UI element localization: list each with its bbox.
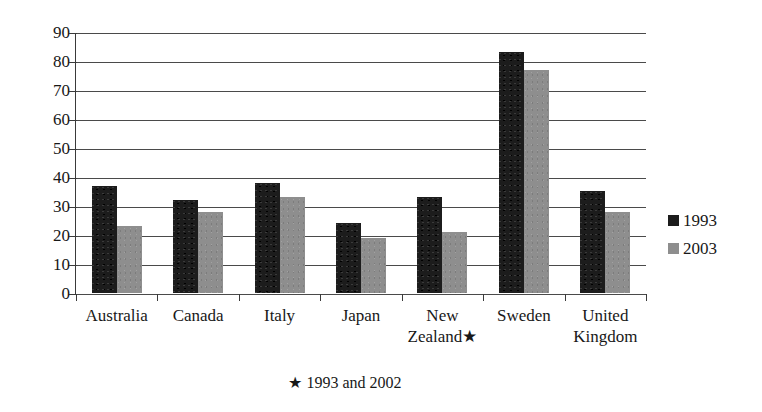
y-axis-tick-label: 40	[24, 169, 70, 186]
chart-footnote: ★ 1993 and 2002	[0, 373, 690, 392]
bar-1993	[499, 52, 524, 293]
y-axis-tick-label: 10	[24, 256, 70, 273]
y-axis-tickmark	[69, 120, 77, 121]
bar-group	[173, 32, 223, 293]
x-axis-tickmark	[76, 294, 77, 301]
bar-2003	[361, 238, 386, 293]
x-axis-tickmark	[483, 294, 484, 301]
y-axis-tick-label: 90	[24, 24, 70, 41]
y-axis-tickmark	[69, 62, 77, 63]
chart-legend: 1993 2003	[668, 206, 758, 262]
bar-1993	[92, 186, 117, 293]
y-axis-tick-labels: 9080706050403020100	[16, 0, 70, 412]
bar-2003	[117, 226, 142, 293]
legend-item-2003: 2003	[668, 234, 758, 262]
bar-1993	[336, 223, 361, 293]
y-axis-tick-label: 30	[24, 198, 70, 215]
x-axis-tickmark	[239, 294, 240, 301]
y-axis-line	[75, 33, 76, 295]
bar-group	[499, 32, 549, 293]
bar-1993	[580, 191, 605, 293]
bar-group	[417, 32, 467, 293]
y-axis-tick-label: 0	[24, 285, 70, 302]
legend-label-2003: 2003	[683, 240, 717, 257]
x-axis-category-label: UnitedKingdom	[557, 305, 654, 347]
x-axis-tickmark	[402, 294, 403, 301]
bar-2003	[605, 212, 630, 293]
y-axis-tick-label: 20	[24, 227, 70, 244]
y-axis-tick-label: 50	[24, 140, 70, 157]
x-axis-tickmark	[646, 294, 647, 301]
bar-chart: 9080706050403020100 AustraliaCanadaItaly…	[0, 0, 762, 412]
bar-2003	[280, 197, 305, 293]
y-axis-tickmark	[69, 91, 77, 92]
legend-swatch-2003	[668, 243, 679, 254]
bar-group	[92, 32, 142, 293]
y-axis-tickmark	[69, 33, 77, 34]
gridline	[76, 294, 646, 295]
y-axis-tick-label: 80	[24, 53, 70, 70]
legend-label-1993: 1993	[683, 212, 717, 229]
bar-group	[255, 32, 305, 293]
x-axis-tickmark	[320, 294, 321, 301]
bar-1993	[255, 183, 280, 293]
bar-2003	[442, 232, 467, 293]
bar-2003	[524, 70, 549, 293]
y-axis-tickmark	[69, 265, 77, 266]
category-label-line: Kingdom	[557, 326, 654, 347]
legend-swatch-1993	[668, 215, 679, 226]
bar-group	[580, 32, 630, 293]
y-axis-tickmark	[69, 236, 77, 237]
x-axis-tickmark	[157, 294, 158, 301]
y-axis-tickmark	[69, 178, 77, 179]
y-axis-tick-label: 60	[24, 111, 70, 128]
x-axis-tickmark	[565, 294, 566, 301]
bar-1993	[417, 197, 442, 293]
legend-item-1993: 1993	[668, 206, 758, 234]
bar-group	[336, 32, 386, 293]
y-axis-tickmark	[69, 207, 77, 208]
plot-area	[76, 33, 646, 294]
category-label-line: Zealand★	[394, 326, 491, 347]
y-axis-tickmark	[69, 149, 77, 150]
bar-2003	[198, 212, 223, 293]
bar-1993	[173, 200, 198, 293]
y-axis-tick-label: 70	[24, 82, 70, 99]
category-label-line: United	[557, 305, 654, 326]
